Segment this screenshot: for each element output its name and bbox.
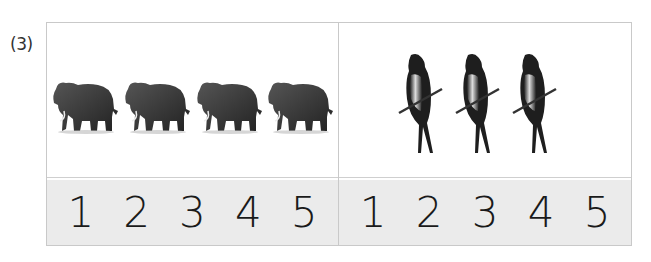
number-choices-elephants: 1 2 3 4 5 <box>47 180 338 245</box>
elephant-picture-area <box>47 23 338 178</box>
number-choices-swallows: 1 2 3 4 5 <box>339 180 631 245</box>
choice-1[interactable]: 1 <box>61 192 101 234</box>
elephant-icon <box>267 81 335 135</box>
choice-5[interactable]: 5 <box>577 192 617 234</box>
elephant-icon <box>52 81 120 135</box>
swallow-icon <box>454 53 500 155</box>
counting-exercise: 1 2 3 4 5 <box>46 22 632 246</box>
question-number: (3) <box>10 34 33 54</box>
swallow-icon <box>511 53 557 155</box>
elephant-icon <box>196 81 264 135</box>
choice-4[interactable]: 4 <box>228 192 268 234</box>
choice-5[interactable]: 5 <box>284 192 324 234</box>
choice-3[interactable]: 3 <box>172 192 212 234</box>
choice-2[interactable]: 2 <box>409 192 449 234</box>
choice-3[interactable]: 3 <box>465 192 505 234</box>
panel-swallows: 1 2 3 4 5 <box>339 23 631 245</box>
elephant-icon <box>124 81 192 135</box>
swallow-picture-area <box>339 23 631 178</box>
choice-1[interactable]: 1 <box>353 192 393 234</box>
swallow-icon <box>397 53 443 155</box>
choice-4[interactable]: 4 <box>521 192 561 234</box>
choice-2[interactable]: 2 <box>117 192 157 234</box>
panel-elephants: 1 2 3 4 5 <box>47 23 339 245</box>
